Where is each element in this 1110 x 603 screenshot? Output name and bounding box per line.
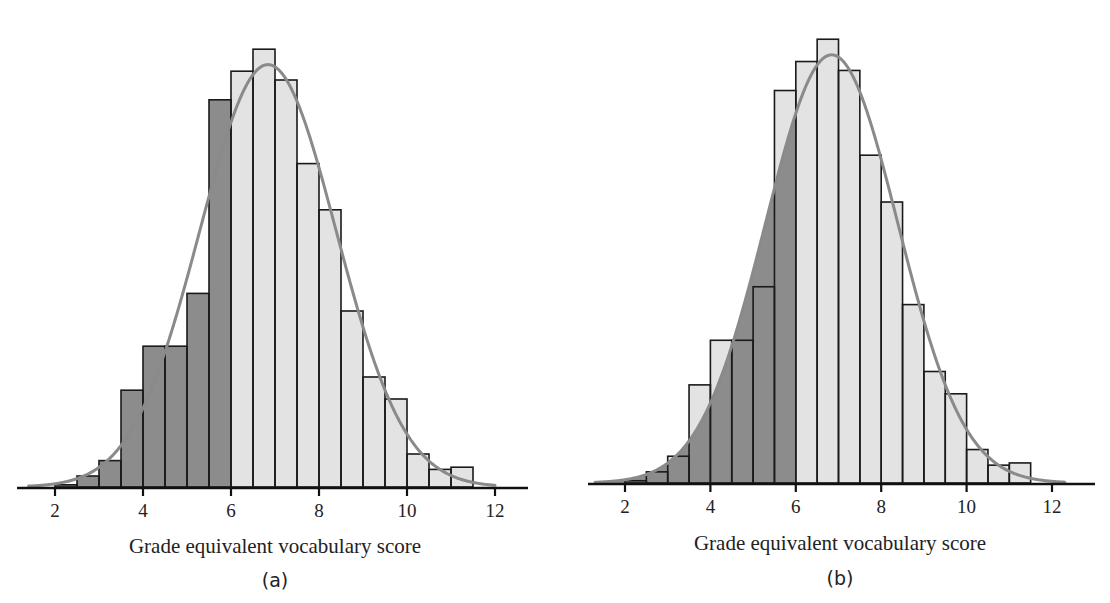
histogram-bar <box>363 377 385 487</box>
x-tick-label: 6 <box>791 496 801 517</box>
panel-b-label: (b) <box>827 567 854 589</box>
x-tick-label: 6 <box>226 500 236 521</box>
x-tick-label: 2 <box>620 496 630 517</box>
x-tick-label: 12 <box>1043 496 1062 517</box>
histogram-bar <box>903 305 924 483</box>
x-tick-label: 4 <box>706 496 716 517</box>
histogram-bar <box>796 62 817 483</box>
panel-a-x-axis-title: Grade equivalent vocabulary score <box>129 534 421 558</box>
histogram-bar <box>988 465 1009 483</box>
x-tick-label: 10 <box>398 500 417 521</box>
panel-b-x-axis-title: Grade equivalent vocabulary score <box>694 531 986 555</box>
x-tick-label: 10 <box>957 496 976 517</box>
histogram-bar <box>839 70 860 483</box>
histogram-bar <box>187 293 209 487</box>
x-tick-label: 8 <box>314 500 324 521</box>
histogram-bar <box>881 202 902 483</box>
x-tick-label: 12 <box>486 500 505 521</box>
histogram-bar <box>860 155 881 483</box>
x-tick-label: 4 <box>138 500 148 521</box>
x-tick-label: 8 <box>876 496 886 517</box>
histogram-bar <box>817 39 838 483</box>
histogram-bar <box>165 346 187 487</box>
panel-a-histogram: 24681012 <box>17 49 528 521</box>
histogram-bar <box>143 346 165 487</box>
histogram-bar <box>253 49 275 487</box>
x-tick-label: 2 <box>50 500 60 521</box>
figure: 24681012 24681012 Grade equivalent vocab… <box>0 0 1110 603</box>
histogram-bar <box>429 469 451 487</box>
histogram-figure: 24681012 24681012 Grade equivalent vocab… <box>0 0 1110 603</box>
histogram-bar <box>319 210 341 487</box>
histogram-bar <box>275 80 297 487</box>
panel-b-histogram: 24681012 <box>588 39 1095 517</box>
histogram-bar <box>341 311 363 487</box>
panel-a-label: (a) <box>262 569 288 591</box>
histogram-bar <box>231 71 253 487</box>
histogram-bar <box>297 164 319 487</box>
histogram-bar <box>924 372 945 484</box>
